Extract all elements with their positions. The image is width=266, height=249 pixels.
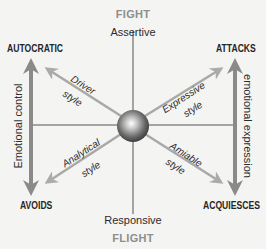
social-styles-diagram: FIGHT Assertive Responsive FLIGHT AUTOCR…	[0, 0, 266, 249]
axis-label-assertive: Assertive	[93, 26, 173, 38]
side-label-emotional-control: Emotional control	[12, 66, 24, 186]
corner-label-attacks: ATTACKS	[216, 43, 256, 54]
side-label-emotional-expression: emotional expression	[242, 66, 254, 186]
pole-label-fight: FIGHT	[93, 8, 173, 20]
corner-label-acquiesces: ACQUIESCES	[203, 200, 260, 211]
axis-label-responsive: Responsive	[93, 214, 173, 226]
corner-label-avoids: AVOIDS	[20, 200, 52, 211]
corner-label-autocratic: AUTOCRATIC	[7, 43, 63, 54]
pole-label-flight: FLIGHT	[93, 232, 173, 244]
center-sphere	[117, 110, 149, 142]
